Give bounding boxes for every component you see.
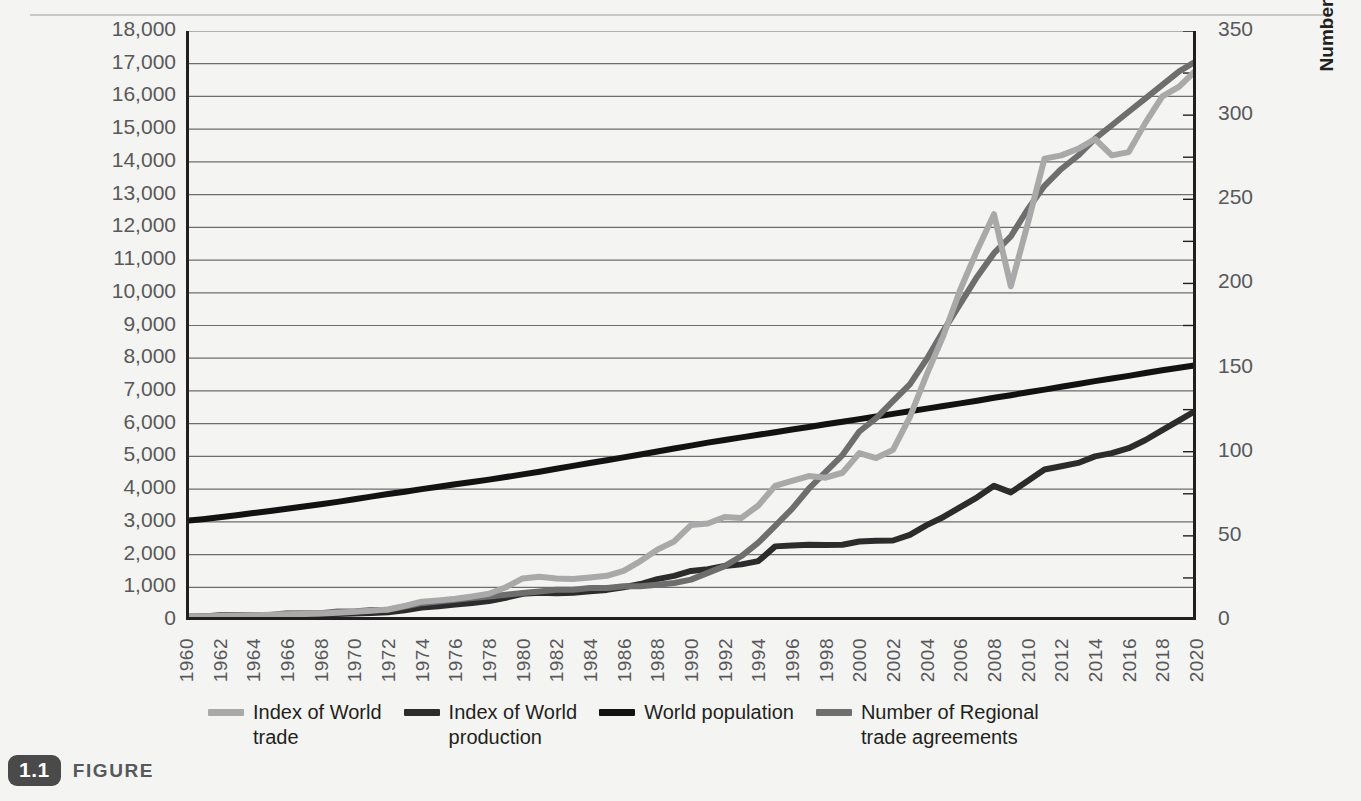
y-axis-left-tick-label: 12,000 bbox=[26, 213, 176, 237]
y-axis-left-tick-label: 14,000 bbox=[26, 148, 176, 172]
y-axis-left-tick-label: 4,000 bbox=[26, 475, 176, 499]
x-axis-tick-label: 2000 bbox=[849, 638, 871, 682]
y-axis-left-tick-label: 3,000 bbox=[26, 508, 176, 532]
x-axis-tick-label: 1980 bbox=[513, 638, 535, 682]
x-axis-tick-label: 1962 bbox=[210, 638, 232, 682]
x-axis-tick-label: 1988 bbox=[647, 638, 669, 682]
y-axis-left-tick-label: 11,000 bbox=[26, 246, 176, 270]
chart-plot-area bbox=[186, 31, 1196, 620]
x-axis-tick-label: 1978 bbox=[479, 638, 501, 682]
x-axis-tick-label: 1984 bbox=[580, 638, 602, 682]
x-axis-tick-label: 1992 bbox=[715, 638, 737, 682]
x-axis-tick-label: 1994 bbox=[748, 638, 770, 682]
y-axis-left-tick-label: 7,000 bbox=[26, 377, 176, 401]
legend-swatch-icon bbox=[599, 709, 635, 716]
chart-frame bbox=[186, 31, 1196, 620]
x-axis-tick-label: 2020 bbox=[1186, 638, 1208, 682]
x-axis-tick-label: 2002 bbox=[883, 638, 905, 682]
x-axis-tick-label: 1966 bbox=[277, 638, 299, 682]
x-axis-tick-label: 1960 bbox=[176, 638, 198, 682]
legend-swatch-icon bbox=[208, 709, 244, 716]
y-axis-right-tick-label: 250 bbox=[1218, 185, 1298, 209]
y-axis-left-tick-label: 8,000 bbox=[26, 344, 176, 368]
y-axis-right-tick-label: 50 bbox=[1218, 522, 1298, 546]
x-axis-tick-label: 1974 bbox=[412, 638, 434, 682]
legend-label: World population bbox=[644, 700, 794, 725]
legend-item-index-of-world-trade[interactable]: Index of World trade bbox=[208, 700, 382, 750]
x-axis-tick-label: 1990 bbox=[681, 638, 703, 682]
figure-label: FIGURE bbox=[73, 760, 154, 782]
y-axis-right-tick-label: 100 bbox=[1218, 438, 1298, 462]
y-axis-left-tick-label: 13,000 bbox=[26, 181, 176, 205]
legend-label: Index of World trade bbox=[253, 700, 382, 750]
x-axis-tick-label: 2016 bbox=[1119, 638, 1141, 682]
x-axis-tick-label: 1982 bbox=[546, 638, 568, 682]
y-axis-left-tick-label: 9,000 bbox=[26, 312, 176, 336]
y-axis-left-tick-label: 0 bbox=[26, 606, 176, 630]
figure-number-badge: 1.1 bbox=[8, 755, 61, 786]
y-axis-left-tick-label: 6,000 bbox=[26, 410, 176, 434]
y-axis-right-tick-label: 0 bbox=[1218, 606, 1298, 630]
legend-label: Number of Regional trade agreements bbox=[861, 700, 1039, 750]
x-axis-tick-label: 1970 bbox=[344, 638, 366, 682]
x-axis-tick-label: 1986 bbox=[614, 638, 636, 682]
x-axis-tick-label: 1964 bbox=[243, 638, 265, 682]
top-divider bbox=[30, 14, 1331, 16]
x-axis-tick-label: 2006 bbox=[950, 638, 972, 682]
y-axis-right-tick-label: 300 bbox=[1218, 101, 1298, 125]
y-axis-left-tick-label: 15,000 bbox=[26, 115, 176, 139]
legend-swatch-icon bbox=[816, 709, 852, 716]
legend-item-world-population[interactable]: World population bbox=[599, 700, 794, 725]
legend-swatch-icon bbox=[404, 709, 440, 716]
x-axis-tick-label: 2008 bbox=[984, 638, 1006, 682]
x-axis-tick-label: 2012 bbox=[1051, 638, 1073, 682]
y-axis-left-tick-label: 18,000 bbox=[26, 17, 176, 41]
x-axis-tick-label: 1968 bbox=[311, 638, 333, 682]
x-axis-tick-label: 1976 bbox=[445, 638, 467, 682]
y-axis-left-tick-label: 10,000 bbox=[26, 279, 176, 303]
x-axis-tick-label: 1972 bbox=[378, 638, 400, 682]
y-axis-right-title: Number of Regional Trade Agreements bbox=[1314, 0, 1339, 106]
y-axis-left-tick-label: 2,000 bbox=[26, 541, 176, 565]
y-axis-right-tick-label: 150 bbox=[1218, 354, 1298, 378]
y-axis-left-tick-label: 17,000 bbox=[26, 50, 176, 74]
y-axis-left-tick-label: 1,000 bbox=[26, 573, 176, 597]
x-axis-tick-label: 2004 bbox=[917, 638, 939, 682]
legend-item-number-of-regional-trade-agreements[interactable]: Number of Regional trade agreements bbox=[816, 700, 1039, 750]
y-axis-left-tick-label: 5,000 bbox=[26, 442, 176, 466]
x-axis-tick-label: 2018 bbox=[1152, 638, 1174, 682]
x-axis-tick-label: 2014 bbox=[1085, 638, 1107, 682]
y-axis-left-tick-label: 16,000 bbox=[26, 82, 176, 106]
x-axis-tick-label: 1996 bbox=[782, 638, 804, 682]
figure-caption: 1.1 FIGURE bbox=[8, 755, 154, 786]
chart-legend: Index of World tradeIndex of World produ… bbox=[208, 700, 1158, 750]
legend-item-index-of-world-production[interactable]: Index of World production bbox=[404, 700, 578, 750]
x-axis-tick-label: 1998 bbox=[816, 638, 838, 682]
x-axis-tick-label: 2010 bbox=[1018, 638, 1040, 682]
y-axis-right-tick-label: 350 bbox=[1218, 17, 1298, 41]
y-axis-right-tick-label: 200 bbox=[1218, 269, 1298, 293]
legend-label: Index of World production bbox=[449, 700, 578, 750]
